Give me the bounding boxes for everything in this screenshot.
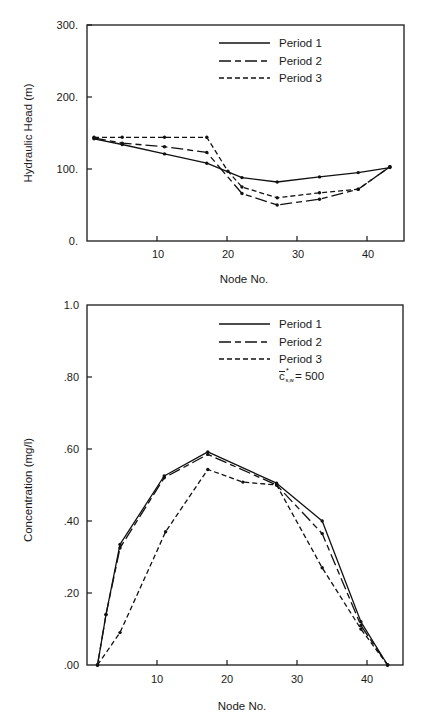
annotation-subscript: s,w — [286, 377, 294, 383]
data-point-marker — [276, 203, 279, 206]
y-axis-label: Concentration (mg/l) — [22, 438, 34, 542]
data-point-marker — [357, 171, 360, 174]
y-tick-label: .80 — [64, 371, 79, 383]
data-point-marker — [206, 453, 209, 456]
data-point-marker — [226, 170, 229, 173]
data-point-marker — [163, 152, 166, 155]
x-tick-label: 10 — [152, 248, 164, 260]
data-point-marker — [276, 196, 279, 199]
x-tick-label: 20 — [222, 248, 234, 260]
x-axis-label: Node No. — [220, 273, 269, 285]
x-tick-label: 40 — [362, 248, 374, 260]
y-tick-label: .00 — [64, 659, 79, 671]
data-point-marker — [318, 191, 321, 194]
data-point-marker — [205, 162, 208, 165]
series-line-period-3 — [94, 137, 390, 198]
data-point-marker — [163, 136, 166, 139]
plot-frame — [87, 25, 404, 241]
concentration-chart: 1.0 .80 .60 .40 .20 .00 10 20 30 40 Node… — [22, 299, 403, 712]
data-point-marker — [121, 136, 124, 139]
legend: Period 1 Period 2 Period 3 — [219, 37, 322, 84]
source-concentration-annotation: c * s,w = 500 — [279, 367, 324, 383]
data-point-marker — [163, 145, 166, 148]
data-point-marker — [321, 532, 324, 535]
data-point-marker — [118, 546, 121, 549]
y-axis-label: Hydraulic Head (m) — [22, 83, 34, 182]
x-tick-label: 30 — [292, 248, 304, 260]
data-point-marker — [206, 468, 209, 471]
series-line-period-3 — [98, 470, 388, 666]
data-point-marker — [318, 198, 321, 201]
data-point-marker — [357, 188, 360, 191]
legend-label-period-1: Period 1 — [279, 37, 322, 49]
annotation-symbol: c — [279, 370, 285, 382]
series-group — [96, 450, 390, 667]
data-point-marker — [92, 136, 95, 139]
y-tick-label: .20 — [64, 587, 79, 599]
data-point-marker — [275, 483, 278, 486]
data-point-marker — [240, 192, 243, 195]
data-point-marker — [388, 165, 391, 168]
y-tick-label: .40 — [64, 515, 79, 527]
data-point-marker — [321, 566, 324, 569]
data-point-marker — [118, 631, 121, 634]
x-tick-label: 10 — [151, 673, 163, 685]
data-point-marker — [240, 176, 243, 179]
annotation-superscript: * — [286, 367, 289, 374]
legend-label-period-2: Period 2 — [279, 55, 322, 67]
legend-label-period-3: Period 3 — [279, 353, 322, 365]
data-point-marker — [121, 141, 124, 144]
data-point-marker — [318, 175, 321, 178]
x-tick-label: 20 — [221, 673, 233, 685]
y-tick-label: 100. — [57, 163, 78, 175]
annotation-value: = 500 — [295, 370, 324, 382]
legend-label-period-2: Period 2 — [279, 336, 322, 348]
hydraulic-head-chart: 300. 200. 100. 0. 10 20 30 40 Node No. H… — [22, 19, 404, 285]
data-point-marker — [276, 180, 279, 183]
series-group — [92, 136, 391, 207]
data-point-marker — [164, 530, 167, 533]
data-point-marker — [104, 613, 107, 616]
y-tick-label: 0. — [69, 235, 78, 247]
legend-label-period-3: Period 3 — [279, 72, 322, 84]
y-tick-label: 300. — [57, 19, 78, 31]
series-line-period-2 — [98, 454, 388, 665]
data-point-marker — [321, 519, 324, 522]
x-tick-label: 30 — [291, 673, 303, 685]
data-point-marker — [205, 151, 208, 154]
series-line-period-1 — [94, 139, 390, 182]
y-tick-label: 200. — [57, 91, 78, 103]
data-point-marker — [96, 663, 99, 666]
x-axis-label: Node No. — [218, 700, 267, 712]
data-point-marker — [359, 627, 362, 630]
y-tick-label: 1.0 — [64, 299, 79, 311]
legend-label-period-1: Period 1 — [279, 318, 322, 330]
data-point-marker — [163, 476, 166, 479]
y-tick-label: .60 — [64, 443, 79, 455]
figure: 300. 200. 100. 0. 10 20 30 40 Node No. H… — [0, 0, 424, 727]
legend: Period 1 Period 2 Period 3 c * s,w = 500 — [219, 318, 324, 383]
series-line-period-1 — [98, 452, 388, 665]
data-point-marker — [386, 663, 389, 666]
data-point-marker — [241, 480, 244, 483]
data-point-marker — [240, 185, 243, 188]
data-point-marker — [205, 136, 208, 139]
x-tick-label: 40 — [361, 673, 373, 685]
